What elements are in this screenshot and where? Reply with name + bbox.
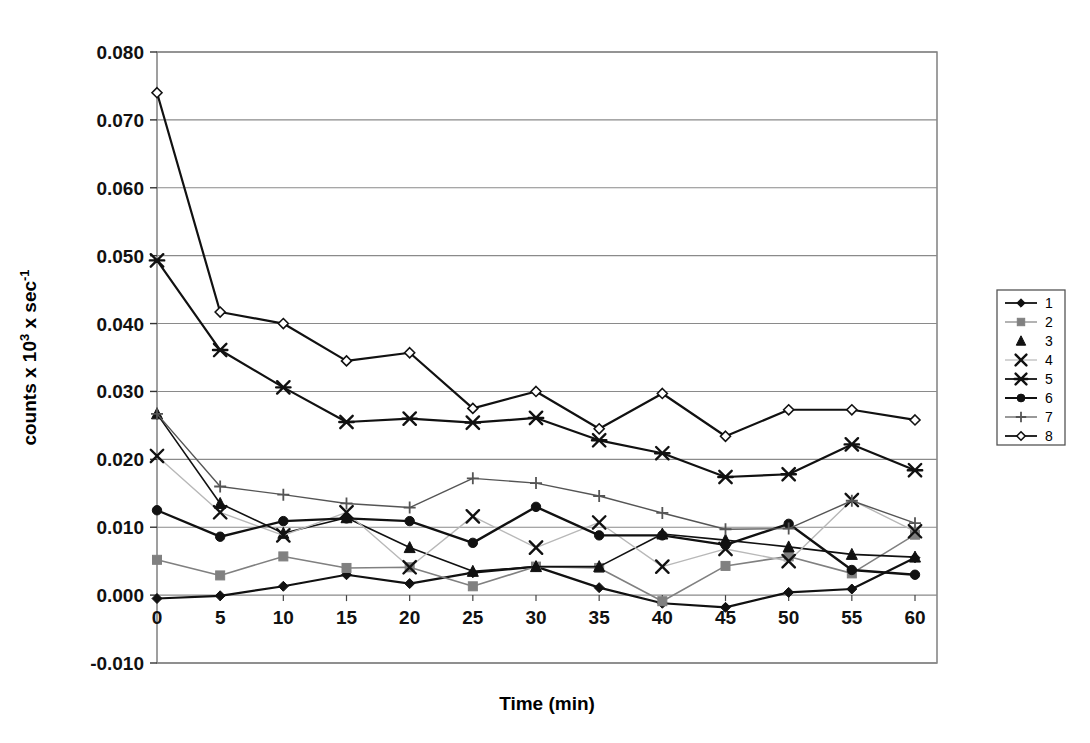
x-axis-title: Time (min) — [499, 693, 595, 714]
plus-marker — [720, 523, 732, 535]
marker-plus — [467, 472, 479, 484]
circle-marker — [152, 506, 161, 515]
asterisk-marker — [213, 344, 227, 356]
y-tick-label: 0.040 — [96, 314, 144, 335]
y-title-prefix: counts x 10 — [19, 341, 40, 446]
marker-diamond — [847, 584, 857, 594]
series-8 — [152, 88, 920, 442]
circle-marker — [531, 502, 540, 511]
chart-figure: 0.0800.0700.0600.0500.0400.0300.0200.010… — [0, 0, 1090, 743]
open-diamond-marker — [278, 319, 288, 329]
circle-marker — [342, 514, 351, 523]
y-tick-label: 0.010 — [96, 517, 144, 538]
legend-label-3: 3 — [1045, 333, 1053, 349]
open-diamond-marker — [215, 307, 225, 317]
plus-marker — [656, 507, 668, 519]
asterisk-marker — [718, 471, 732, 483]
plus-marker — [467, 472, 479, 484]
circle-marker — [594, 531, 603, 540]
square-marker — [279, 552, 288, 561]
marker-square — [279, 552, 288, 561]
marker-circle — [594, 531, 603, 540]
marker-circle — [721, 540, 730, 549]
marker-asterisk — [466, 416, 480, 428]
marker-square — [658, 597, 667, 606]
x-tick-label: 35 — [589, 607, 611, 628]
plus-marker — [593, 490, 605, 502]
y-title-sup-minus1: -1 — [17, 269, 32, 281]
marker-open-diamond — [342, 356, 352, 366]
legend-label-5: 5 — [1045, 371, 1053, 387]
open-diamond-marker — [784, 405, 794, 415]
legend-label-7: 7 — [1045, 409, 1053, 425]
square-marker — [721, 561, 730, 570]
marker-open-diamond — [152, 88, 162, 98]
marker-open-diamond — [847, 405, 857, 415]
diamond-marker — [405, 579, 415, 589]
y-tick-label: 0.020 — [96, 449, 144, 470]
x-tick-label: 55 — [841, 607, 863, 628]
y-tick-label: 0.000 — [96, 585, 144, 606]
series-line-5 — [157, 260, 915, 477]
plus-marker — [277, 489, 289, 501]
y-title-mid: x sec — [19, 281, 40, 334]
marker-open-diamond — [594, 424, 604, 434]
marker-asterisk — [718, 471, 732, 483]
marker-square — [216, 571, 225, 580]
asterisk-marker — [466, 416, 480, 428]
y-tick-label: 0.080 — [96, 42, 144, 63]
diamond-marker — [847, 584, 857, 594]
marker-asterisk — [845, 438, 859, 450]
marker-open-diamond — [531, 386, 541, 396]
legend-label-1: 1 — [1045, 295, 1053, 311]
triangle-marker — [404, 542, 415, 553]
marker-open-diamond — [784, 405, 794, 415]
marker-x — [656, 560, 668, 572]
open-diamond-marker — [531, 386, 541, 396]
marker-square — [1017, 318, 1024, 325]
marker-open-diamond — [215, 307, 225, 317]
y-axis-title-text: counts x 103 x sec-1 — [17, 269, 40, 445]
marker-asterisk — [908, 464, 922, 476]
marker-circle — [847, 565, 856, 574]
circle-marker — [468, 538, 477, 547]
circle-marker — [405, 516, 414, 525]
marker-asterisk — [402, 412, 416, 424]
marker-circle — [658, 531, 667, 540]
marker-asterisk — [529, 412, 543, 424]
marker-square — [153, 555, 162, 564]
asterisk-marker — [845, 438, 859, 450]
marker-circle — [910, 570, 919, 579]
marker-plus — [404, 502, 416, 514]
asterisk-marker — [339, 416, 353, 428]
x-tick-label: 15 — [336, 607, 358, 628]
marker-circle — [215, 532, 224, 541]
marker-circle — [405, 516, 414, 525]
x-marker — [530, 541, 542, 553]
x-tick-label: 0 — [152, 607, 163, 628]
x-marker — [467, 510, 479, 522]
open-diamond-marker — [910, 415, 920, 425]
plus-marker — [530, 477, 542, 489]
circle-marker — [1017, 394, 1025, 402]
asterisk-marker — [402, 412, 416, 424]
marker-square — [342, 563, 351, 572]
asterisk-marker — [781, 468, 795, 480]
marker-circle — [342, 514, 351, 523]
open-diamond-marker — [847, 405, 857, 415]
series-layer — [150, 88, 922, 613]
diamond-marker — [215, 591, 225, 601]
y-tick-label: 0.030 — [96, 381, 144, 402]
marker-circle — [1017, 394, 1025, 402]
y-tick-label: -0.010 — [90, 653, 144, 674]
marker-asterisk — [655, 447, 669, 459]
marker-plus — [530, 477, 542, 489]
legend-label-2: 2 — [1045, 314, 1053, 330]
y-tick-label: 0.060 — [96, 178, 144, 199]
open-diamond-marker — [152, 88, 162, 98]
circle-marker — [279, 516, 288, 525]
marker-square — [468, 582, 477, 591]
diamond-marker — [784, 587, 794, 597]
marker-x — [530, 541, 542, 553]
marker-triangle — [404, 542, 415, 553]
